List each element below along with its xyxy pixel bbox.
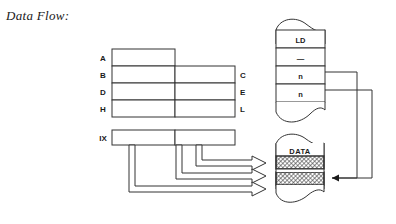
register-cell-l: [175, 100, 235, 117]
address-arrow-top: [196, 145, 266, 170]
register-label-d: D: [100, 88, 106, 97]
memory-operand-low-label: n: [298, 90, 303, 99]
data-block-label: DATA: [289, 147, 311, 156]
operand-wire-high: [325, 72, 357, 178]
operand-wire-low: [325, 90, 372, 178]
register-cell-b: [112, 66, 175, 83]
operand-feed-wires: [325, 72, 372, 178]
figure-caption: Data Flow:: [6, 8, 69, 24]
address-bus-arrows: [129, 145, 266, 196]
data-block-group: DATA: [276, 134, 324, 202]
register-label-e: E: [240, 88, 246, 97]
register-label-h: H: [100, 105, 106, 114]
index-register-group: IX: [99, 130, 235, 145]
memory-operand-high-label: n: [298, 72, 303, 81]
data-flow-diagram: A B D H C E L IX LD —: [0, 0, 396, 224]
register-cell-c: [175, 66, 235, 83]
register-cell-e: [175, 83, 235, 100]
index-register-label: IX: [99, 134, 107, 143]
index-register-cell-low: [175, 130, 235, 145]
register-label-c: C: [240, 71, 246, 80]
data-hatched-row-2-cross: [276, 172, 324, 185]
register-cell-h: [112, 100, 175, 117]
memory-separator-label: —: [297, 54, 305, 63]
data-hatched-row-1-cross: [276, 156, 324, 169]
index-register-cell-high: [112, 130, 175, 145]
memory-torn-bottom-edge: [276, 102, 325, 122]
memory-opcode-label: LD: [296, 36, 307, 45]
program-memory-group: LD — n n: [276, 19, 325, 122]
data-flow-figure: Data Flow: A B D: [0, 0, 396, 224]
register-label-l: L: [240, 105, 245, 114]
register-label-a: A: [100, 54, 106, 63]
register-file-group: A B D H C E L: [100, 49, 246, 117]
register-cell-d: [112, 83, 175, 100]
register-label-b: B: [100, 71, 106, 80]
data-torn-bottom-edge: [276, 185, 324, 202]
register-cell-a: [112, 49, 175, 66]
data-in-arrowhead: [332, 175, 339, 182]
